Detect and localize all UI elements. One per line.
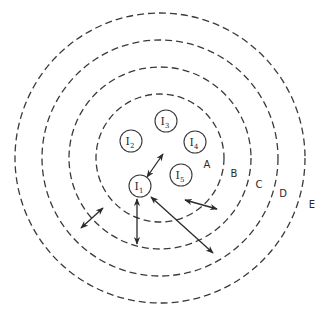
arrow-left-free-icon [81,208,103,228]
node-i3: I3 [155,110,177,132]
node-i1: I1 [129,175,151,197]
individual-nodes: I1I2I3I4I5 [120,110,206,197]
arrow-i1-inward-icon [147,154,163,177]
clipped-caption [0,304,331,313]
concentric-zones-diagram: I1I2I3I4I5 ABCDE [0,0,331,313]
zone-label-b: B [231,168,238,179]
node-i5: I5 [170,164,192,186]
node-i2: I2 [120,130,142,152]
zone-label-a: A [204,159,211,170]
zone-label-d: D [279,188,287,199]
node-i4: I4 [184,131,206,153]
zone-label-e: E [309,199,315,210]
zone-label-c: C [256,179,263,190]
interaction-arrows [81,154,217,253]
